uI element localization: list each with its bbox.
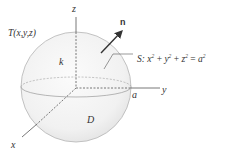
- y-axis-label: y: [161, 84, 167, 95]
- sphere-diagram: z y x T(x,y,z) n k D a S: x2 + y2 + z2 =…: [0, 0, 235, 153]
- normal-label: n: [120, 17, 126, 27]
- conductivity-label: k: [59, 56, 64, 67]
- surface-plus-1: +: [154, 54, 164, 64]
- sphere: [21, 32, 131, 142]
- x-axis-outer: [22, 124, 37, 137]
- surface-eq: =: [188, 54, 198, 64]
- surface-prefix: S:: [137, 54, 147, 64]
- region-label: D: [86, 114, 95, 125]
- radius-label: a: [132, 89, 137, 100]
- x-axis-label: x: [10, 139, 16, 150]
- surface-plus-2: +: [171, 54, 181, 64]
- point-label: T(x,y,z): [8, 28, 36, 39]
- surface-exp-a: 2: [203, 53, 206, 59]
- z-axis-label: z: [71, 3, 76, 14]
- surface-equation: S: x2 + y2 + z2 = a2: [137, 53, 206, 64]
